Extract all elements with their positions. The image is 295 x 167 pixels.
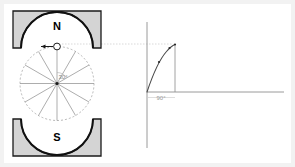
north-pole-label: N xyxy=(53,20,61,32)
conductor-circle xyxy=(54,43,61,50)
x-axis-tick-label: 90° xyxy=(156,95,166,101)
rotor-assembly: 30° xyxy=(20,43,94,120)
physics-figure: N S xyxy=(0,0,295,167)
rotor-angle-label: 30° xyxy=(59,74,69,80)
velocity-arrow-head xyxy=(41,45,46,49)
rotor-hub xyxy=(55,82,58,85)
curve-marker xyxy=(174,43,176,45)
figure-page: N S xyxy=(0,0,295,167)
emf-curve xyxy=(147,45,175,93)
curve-marker xyxy=(168,47,170,49)
south-pole-label: S xyxy=(53,131,60,143)
emf-graph: 90° xyxy=(147,22,284,148)
curve-marker xyxy=(158,61,160,63)
